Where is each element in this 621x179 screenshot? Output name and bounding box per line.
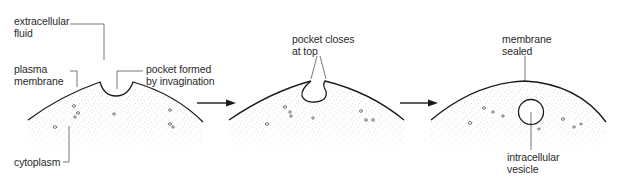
stage-2-cell [227,56,407,152]
stage-1-cell [26,24,206,162]
leader-plasma-membrane [70,71,77,87]
label-pocket-formed: pocket formed by invagination [146,63,215,87]
stage-3-cell [429,56,609,152]
label-intracellular-vesicle: intracellular vesicle [507,151,559,175]
label-extracellular-fluid: extracellular fluid [14,15,69,39]
leader-pocket-closes-left [311,56,317,79]
leader-extracellular-fluid [70,24,104,60]
label-membrane-sealed: membrane sealed [502,33,551,57]
arrow-stage2-to-stage3 [400,100,438,107]
label-cytoplasm: cytoplasm [14,156,60,168]
label-pocket-closes: pocket closes at top [292,33,354,57]
label-plasma-membrane: plasma membrane [14,63,63,87]
leader-pocket-closes-right [320,56,326,79]
arrow-stage1-to-stage2 [197,100,236,107]
